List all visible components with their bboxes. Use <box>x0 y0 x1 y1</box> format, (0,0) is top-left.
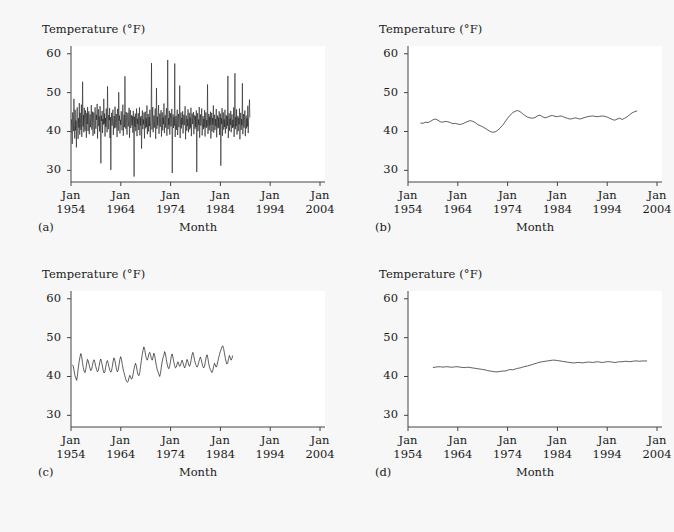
y-tick-label: 40 <box>39 370 61 382</box>
x-tick-label: Jan1994 <box>248 434 292 461</box>
panel-tag-c: (c) <box>38 465 53 479</box>
y-tick-label: 30 <box>39 164 61 176</box>
x-tick-label: Jan1964 <box>99 189 143 216</box>
series-svg-d <box>408 291 662 427</box>
x-tick-label: Jan1974 <box>486 189 530 216</box>
x-tick-label: Jan1964 <box>99 434 143 461</box>
x-axis-title: Month <box>408 465 662 479</box>
panel-tag-a: (a) <box>38 220 54 234</box>
y-tick-label: 40 <box>39 125 61 137</box>
y-tick-label: 50 <box>39 332 61 344</box>
x-tick-label: Jan1964 <box>436 189 480 216</box>
panel-tag-d: (d) <box>375 465 391 479</box>
x-tick-label: Jan1984 <box>535 434 579 461</box>
x-tick-label: Jan1954 <box>386 189 430 216</box>
x-tick-label: Jan1954 <box>49 189 93 216</box>
series-svg-a <box>71 46 325 182</box>
series-svg-b <box>408 46 662 182</box>
x-axis-title: Month <box>71 465 325 479</box>
panel-tag-b: (b) <box>375 220 391 234</box>
y-tick-label: 50 <box>376 332 398 344</box>
x-tick-label: Jan2004 <box>298 189 342 216</box>
y-axis-title: Temperature (°F) <box>42 22 145 36</box>
x-tick-label: Jan2004 <box>298 434 342 461</box>
y-tick-label: 30 <box>39 409 61 421</box>
chart-panel-a: Temperature (°F) (a) Month 30405060Jan19… <box>0 8 337 254</box>
x-tick-label: Jan1954 <box>386 434 430 461</box>
x-tick-label: Jan1984 <box>198 189 242 216</box>
y-tick-label: 50 <box>376 87 398 99</box>
x-axis-title: Month <box>408 220 662 234</box>
x-tick-label: Jan1984 <box>198 434 242 461</box>
y-tick-label: 60 <box>39 293 61 305</box>
y-tick-label: 40 <box>376 125 398 137</box>
plot-area-a <box>71 46 325 182</box>
plot-area-d <box>408 291 662 427</box>
y-axis-title: Temperature (°F) <box>379 22 482 36</box>
chart-panel-b: Temperature (°F) (b) Month 30405060Jan19… <box>337 8 674 254</box>
x-tick-label: Jan1994 <box>585 434 629 461</box>
x-tick-label: Jan1954 <box>49 434 93 461</box>
figure-container: Temperature (°F) (a) Month 30405060Jan19… <box>0 0 674 532</box>
x-tick-label: Jan1984 <box>535 189 579 216</box>
y-tick-label: 50 <box>39 87 61 99</box>
y-tick-label: 30 <box>376 409 398 421</box>
y-tick-label: 60 <box>376 48 398 60</box>
y-tick-label: 30 <box>376 164 398 176</box>
y-tick-label: 40 <box>376 370 398 382</box>
x-tick-label: Jan1974 <box>486 434 530 461</box>
x-axis-title: Month <box>71 220 325 234</box>
x-tick-label: Jan1994 <box>585 189 629 216</box>
y-axis-title: Temperature (°F) <box>379 267 482 281</box>
x-tick-label: Jan1974 <box>149 189 193 216</box>
series-svg-c <box>71 291 325 427</box>
x-tick-label: Jan2004 <box>635 189 674 216</box>
plot-area-b <box>408 46 662 182</box>
x-tick-label: Jan1994 <box>248 189 292 216</box>
y-tick-label: 60 <box>376 293 398 305</box>
y-tick-label: 60 <box>39 48 61 60</box>
chart-panel-c: Temperature (°F) (c) Month 30405060Jan19… <box>0 253 337 499</box>
x-tick-label: Jan2004 <box>635 434 674 461</box>
x-tick-label: Jan1964 <box>436 434 480 461</box>
plot-area-c <box>71 291 325 427</box>
y-axis-title: Temperature (°F) <box>42 267 145 281</box>
chart-panel-d: Temperature (°F) (d) Month 30405060Jan19… <box>337 253 674 499</box>
x-tick-label: Jan1974 <box>149 434 193 461</box>
